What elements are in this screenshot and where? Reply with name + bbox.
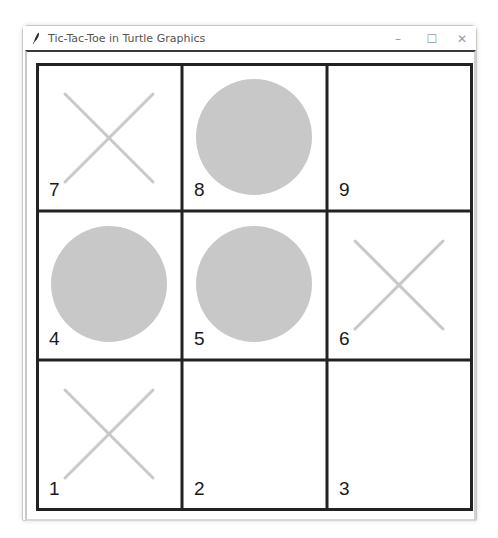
cell-number: 3 xyxy=(339,479,350,498)
minimize-icon: – xyxy=(395,32,401,46)
cell-number: 4 xyxy=(49,329,60,348)
cell-number: 5 xyxy=(194,329,205,348)
board-cell-3[interactable]: 3 xyxy=(327,360,472,510)
board-cell-2[interactable]: 2 xyxy=(182,360,327,510)
board-cell-6[interactable]: 6 xyxy=(327,211,472,360)
app-window: Tic-Tac-Toe in Turtle Graphics – ☐ ✕ 789… xyxy=(22,25,477,521)
cell-number: 6 xyxy=(339,329,350,348)
title-bar[interactable]: Tic-Tac-Toe in Turtle Graphics – ☐ ✕ xyxy=(23,26,476,51)
board-cell-9[interactable]: 9 xyxy=(327,64,472,211)
close-button[interactable]: ✕ xyxy=(445,26,479,51)
turtle-canvas[interactable]: 789456123 xyxy=(25,50,476,521)
cell-number: 9 xyxy=(339,180,350,199)
window-title: Tic-Tac-Toe in Turtle Graphics xyxy=(48,32,205,45)
cell-number: 7 xyxy=(49,180,60,199)
board-cell-8[interactable]: 8 xyxy=(182,64,327,211)
minimize-button[interactable]: – xyxy=(381,26,415,51)
cell-number: 8 xyxy=(194,180,205,199)
board-cell-1[interactable]: 1 xyxy=(37,360,182,510)
maximize-button[interactable]: ☐ xyxy=(415,26,449,51)
cell-number: 1 xyxy=(49,479,60,498)
maximize-icon: ☐ xyxy=(427,32,438,46)
feather-icon xyxy=(32,32,40,45)
board-cell-7[interactable]: 7 xyxy=(37,64,182,211)
close-icon: ✕ xyxy=(457,32,467,46)
cell-number: 2 xyxy=(194,479,205,498)
board-cell-5[interactable]: 5 xyxy=(182,211,327,360)
board-cell-4[interactable]: 4 xyxy=(37,211,182,360)
